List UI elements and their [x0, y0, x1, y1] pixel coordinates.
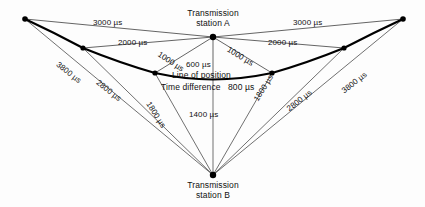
station-a-caption-line2: station A [178, 18, 248, 28]
range-label-a-2000-right: 2000 µs [268, 38, 297, 47]
station-b-caption-line2: station B [178, 190, 248, 200]
range-label-a-3000-left: 3000 µs [93, 18, 122, 27]
curve-vertex-far-right [400, 16, 406, 22]
curve-vertex-mid-left [80, 45, 85, 50]
curve-vertex-mid-right [341, 45, 346, 50]
time-difference-value: 800 µs [228, 82, 254, 92]
station-a-caption: Transmission station A [178, 8, 248, 28]
station-a-marker [210, 34, 216, 40]
range-label-a-2000-left: 2000 µs [118, 38, 147, 47]
range-label-a-3000-right: 3000 µs [293, 18, 322, 27]
range-line-a-2000-left [83, 37, 213, 48]
station-b-marker [210, 172, 216, 178]
time-difference-label: Time difference [161, 82, 221, 92]
diagram-svg [0, 0, 425, 207]
range-label-b-1400-center: 1400 µs [189, 110, 218, 119]
diagram-canvas: Transmission station A Transmission stat… [0, 0, 425, 207]
line-of-position-label: Line of position [172, 70, 231, 80]
range-line-b-2800-right [213, 48, 344, 175]
station-b-caption: Transmission station B [178, 180, 248, 200]
curve-vertex-far-left [22, 16, 28, 22]
range-label-a-600-center: 600 µs [186, 60, 211, 69]
station-a-caption-line1: Transmission [178, 8, 248, 18]
curve-vertex-near-left [152, 70, 157, 75]
station-b-caption-line1: Transmission [178, 180, 248, 190]
station-b-range-lines [25, 19, 403, 175]
